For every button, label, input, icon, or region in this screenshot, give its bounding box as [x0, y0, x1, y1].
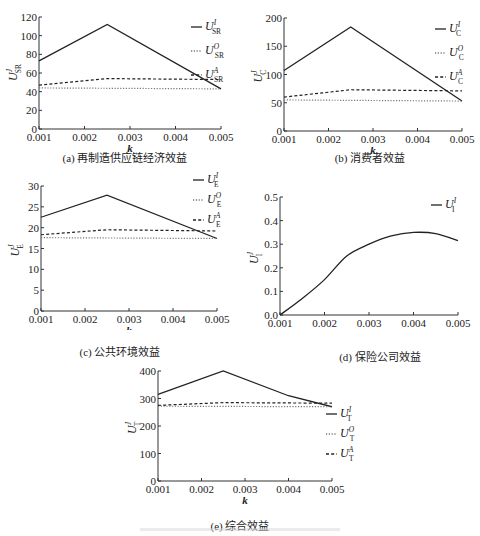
y-axis-label: UJE — [7, 244, 25, 257]
x-tick-label: 0.001 — [268, 317, 293, 329]
x-tick-label: 0.001 — [272, 133, 297, 145]
y-tick-label: 5 — [34, 284, 40, 296]
series-line-dashed — [284, 90, 462, 97]
x-tick-label: 0.004 — [163, 131, 188, 143]
legend-label: UIC — [449, 20, 461, 38]
legend-label: UOE — [207, 191, 222, 209]
caption-b: (b) 消费者效益 — [320, 149, 420, 165]
x-tick-label: 0.002 — [72, 131, 97, 143]
x-tick-label: 0.001 — [27, 131, 52, 143]
y-tick-label: 0.4 — [264, 215, 278, 227]
y-tick-label: 50 — [271, 97, 283, 109]
legend-label: UOC — [449, 44, 464, 62]
x-tick-label: 0.001 — [29, 313, 54, 325]
series-line-dashed — [39, 79, 221, 86]
legend-label: UOT — [340, 425, 355, 443]
x-axis-label: k — [126, 324, 132, 330]
chart-d: 0.00.10.20.30.40.50.0010.0020.0030.0040.… — [240, 170, 480, 330]
legend-label: UOSR — [205, 42, 224, 60]
caption-a: (a) 再制造供应链经济效益 — [50, 149, 200, 165]
y-tick-label: 60 — [26, 67, 38, 79]
y-tick-label: 150 — [266, 40, 283, 52]
y-tick-label: 100 — [140, 448, 157, 460]
legend-label: UIE — [207, 171, 219, 189]
y-tick-label: 300 — [140, 393, 157, 405]
y-tick-label: 80 — [26, 48, 38, 60]
x-tick-label: 0.002 — [316, 133, 341, 145]
legend-label: UISR — [205, 18, 221, 36]
series-line-solid — [41, 195, 217, 238]
y-tick-label: 200 — [266, 12, 283, 24]
y-tick-label: 120 — [21, 11, 38, 23]
y-tick-label: 15 — [28, 243, 40, 255]
x-tick-label: 0.002 — [73, 313, 98, 325]
chart-e: 01002003004000.0010.0020.0030.0040.005kU… — [120, 355, 380, 510]
x-tick-label: 0.005 — [450, 133, 475, 145]
series-line-dashed — [158, 403, 332, 406]
x-tick-label: 0.005 — [209, 131, 234, 143]
y-tick-label: 25 — [28, 201, 40, 213]
legend-label: UAT — [340, 445, 354, 463]
x-axis-label: k — [242, 494, 248, 506]
x-tick-label: 0.005 — [320, 483, 345, 495]
x-tick-label: 0.004 — [161, 313, 186, 325]
y-tick-label: 0.3 — [264, 238, 278, 250]
legend-label: UAE — [207, 211, 221, 229]
x-tick-label: 0.004 — [405, 133, 430, 145]
series-line-solid — [280, 232, 458, 315]
y-tick-label: 40 — [26, 86, 38, 98]
y-axis-label: UJI — [246, 251, 264, 264]
figure-caption-cropped — [140, 528, 340, 531]
legend-label: UIT — [340, 405, 352, 423]
series-line-dashed — [41, 230, 217, 235]
x-tick-label: 0.004 — [401, 317, 426, 329]
x-tick-label: 0.005 — [446, 317, 471, 329]
y-tick-label: 30 — [28, 180, 40, 192]
x-tick-label: 0.002 — [189, 483, 214, 495]
y-tick-label: 20 — [26, 104, 38, 116]
x-tick-label: 0.002 — [312, 317, 337, 329]
chart-c: 0510152025300.0010.0020.0030.0040.005kUJ… — [0, 170, 240, 330]
series-line-solid — [158, 371, 332, 407]
x-axis-label: k — [366, 328, 372, 330]
chart-a: 0204060801001200.0010.0020.0030.0040.005… — [0, 0, 240, 165]
y-axis-label: UJSR — [5, 64, 23, 81]
y-tick-label: 100 — [21, 30, 38, 42]
y-tick-label: 0.2 — [264, 262, 278, 274]
x-tick-label: 0.004 — [276, 483, 301, 495]
series-line-dotted — [284, 100, 462, 101]
x-tick-label: 0.005 — [205, 313, 230, 325]
x-tick-label: 0.001 — [146, 483, 171, 495]
y-tick-label: 20 — [28, 222, 40, 234]
series-line-dotted — [41, 238, 217, 239]
series-line-dotted — [39, 88, 221, 89]
legend-label: UAC — [449, 68, 463, 86]
y-tick-label: 0.5 — [264, 191, 278, 203]
y-tick-label: 400 — [140, 365, 157, 377]
y-tick-label: 10 — [28, 263, 40, 275]
chart-b: 0501001502000.0010.0020.0030.0040.005kUJ… — [240, 0, 480, 165]
legend-label: UII — [445, 196, 457, 214]
y-tick-label: 0.1 — [264, 285, 278, 297]
series-line-dotted — [158, 406, 332, 407]
